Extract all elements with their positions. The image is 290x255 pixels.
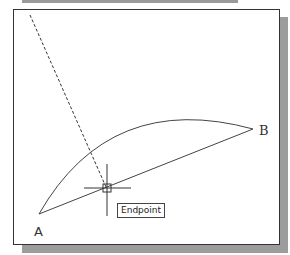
line-a-b[interactable] — [39, 129, 253, 214]
label-point-a: A — [34, 224, 43, 239]
label-point-b: B — [259, 123, 269, 138]
tracking-dashed-line — [30, 15, 106, 187]
osnap-tooltip: Endpoint — [117, 203, 165, 218]
arc-a-b[interactable] — [39, 120, 253, 214]
